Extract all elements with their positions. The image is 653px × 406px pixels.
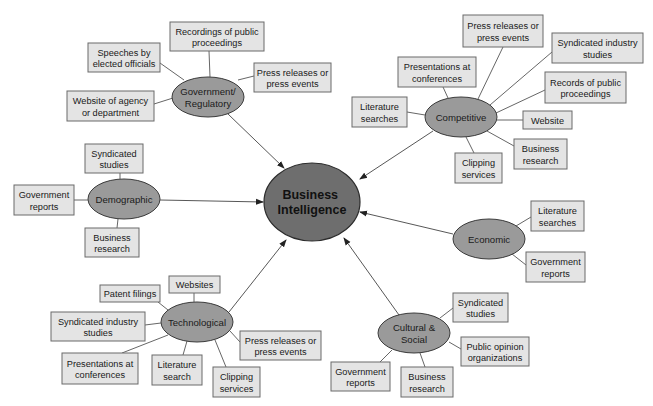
source-label-line-2: reports <box>346 378 375 388</box>
source-label-line-1: Press releases or <box>257 68 329 78</box>
competitive-source-box: Press releases orpress events <box>463 15 543 47</box>
government-regulatory-source-box: Website of agencyor department <box>67 91 154 121</box>
demographic-source-box: Syndicatedstudies <box>85 144 143 173</box>
competitive-connector <box>487 131 514 146</box>
source-label: Press releases orpress events <box>467 21 539 42</box>
business-intelligence-label: Business Intelligence <box>278 188 347 217</box>
economic-node: Economic <box>453 219 525 259</box>
central-node: Business Intelligence <box>264 163 360 241</box>
economic-arrow <box>360 212 453 234</box>
demographic-label: Demographic <box>95 194 152 205</box>
technological-source-box: Literaturesearch <box>152 355 202 385</box>
competitive-connector <box>407 112 425 115</box>
source-label: Press releases orpress events <box>245 336 317 358</box>
technological-source-box: Patent filings <box>100 285 160 302</box>
source-label-line-1: Press releases or <box>245 336 317 346</box>
source-label: Clippingservices <box>220 372 254 394</box>
source-label-line-2: services <box>462 170 496 180</box>
economic-label-line-1: Economic <box>468 234 510 245</box>
demographic-node: Demographic <box>88 179 160 219</box>
source-label-line-1: Syndicated <box>458 298 503 308</box>
source-label-line-2: conferences <box>412 74 462 84</box>
government-regulatory-label-line-1: Government/ <box>180 86 236 97</box>
technological-node: Technological <box>161 302 233 342</box>
source-label-line-2: proceedings <box>560 89 610 99</box>
source-label-line-2: reports <box>541 269 570 279</box>
economic-connector <box>516 217 531 226</box>
source-label-line-1: Syndicated <box>91 149 136 159</box>
cultural-social-node: Cultural &Social <box>378 313 450 353</box>
competitive-source-box: Clippingservices <box>455 153 502 183</box>
source-label-line-2: studies <box>466 309 496 319</box>
source-label-line-1: Clipping <box>220 372 253 382</box>
cultural-social-label-line-2: Social <box>401 334 427 345</box>
competitive-arrow <box>360 131 433 179</box>
government-regulatory-connector <box>154 98 173 104</box>
competitive-connector <box>478 47 503 99</box>
cultural-social-connector <box>440 308 453 318</box>
competitive-connector <box>443 87 448 98</box>
competitive-source-box: Businessresearch <box>514 139 567 169</box>
cultural-social-connector <box>380 350 392 362</box>
technological-arrow <box>229 240 286 312</box>
business-intelligence-diagram: Recordings of publicproceedingsSpeeches … <box>0 0 653 406</box>
source-label-line-2: studies <box>83 328 113 338</box>
source-label-line-2: research <box>409 384 445 394</box>
source-label: Website of agencyor department <box>73 96 149 118</box>
cultural-social-source-box: Businessresearch <box>401 367 453 397</box>
source-label: Businessresearch <box>408 372 446 394</box>
government-regulatory-connector <box>238 76 254 80</box>
competitive-label-line-1: Competitive <box>436 112 487 123</box>
technological-connector <box>158 302 168 310</box>
source-label-line-2: press events <box>266 79 318 89</box>
technological-source-box: Press releases orpress events <box>240 331 321 360</box>
source-label-line-1: Website of agency <box>73 96 149 106</box>
demographic-label-line-1: Demographic <box>95 194 152 205</box>
cultural-social-connector <box>449 342 461 349</box>
government-regulatory-source-box: Recordings of publicproceedings <box>170 22 264 51</box>
source-label: Press releases orpress events <box>257 68 329 90</box>
source-label: Websites <box>176 280 214 290</box>
source-label-line-2: or department <box>82 108 140 118</box>
source-label: Speeches byelected officials <box>93 48 156 70</box>
source-label-line-1: Records of public <box>550 78 621 88</box>
source-label-line-2: research <box>523 156 559 166</box>
source-label: Literaturesearch <box>158 360 197 382</box>
source-label-line-1: Business <box>408 372 446 382</box>
source-label-line-1: Patent filings <box>104 289 157 299</box>
source-label-line-1: Press releases or <box>467 21 539 31</box>
demographic-source-box: Governmentreports <box>14 185 74 215</box>
technological-source-box: Clippingservices <box>213 367 260 397</box>
competitive-connector <box>490 52 552 105</box>
government-regulatory-node: Government/Regulatory <box>172 77 244 117</box>
source-label-line-2: research <box>94 244 130 254</box>
source-label-line-1: Recordings of public <box>175 27 259 37</box>
technological-source-box: Presentations atconferences <box>62 353 138 384</box>
source-label-line-1: Literature <box>158 360 197 370</box>
cultural-social-connector <box>420 353 425 367</box>
source-label-line-1: Clipping <box>462 158 495 168</box>
competitive-label: Competitive <box>436 112 487 123</box>
source-label-line-2: reports <box>30 202 59 212</box>
source-label: Patent filings <box>104 289 157 299</box>
source-label-line-2: organizations <box>468 353 523 363</box>
source-label-line-2: services <box>220 384 254 394</box>
government-regulatory-source-box: Press releases orpress events <box>254 63 331 92</box>
technological-connector <box>215 340 226 367</box>
source-label-line-2: proceedings <box>192 38 242 48</box>
source-label-line-1: Business <box>522 144 560 154</box>
government-regulatory-source-box: Speeches byelected officials <box>88 43 160 72</box>
source-label: Presentations atconferences <box>404 62 471 84</box>
demographic-source-box: Businessresearch <box>85 228 139 257</box>
competitive-source-box: Syndicated industrystudies <box>552 33 643 63</box>
government-regulatory-connector <box>209 51 210 77</box>
source-label: Public opinionorganizations <box>466 342 523 364</box>
source-label: Website <box>531 116 564 126</box>
technological-source-box: Syndicated industrystudies <box>51 312 145 341</box>
source-label-line-2: conferences <box>75 370 125 380</box>
government-regulatory-connector <box>160 63 184 80</box>
source-label-line-1: Literature <box>538 206 577 216</box>
competitive-source-box: Presentations atconferences <box>398 57 476 87</box>
technological-source-box: Websites <box>169 276 220 293</box>
source-label-line-2: searches <box>539 218 577 228</box>
